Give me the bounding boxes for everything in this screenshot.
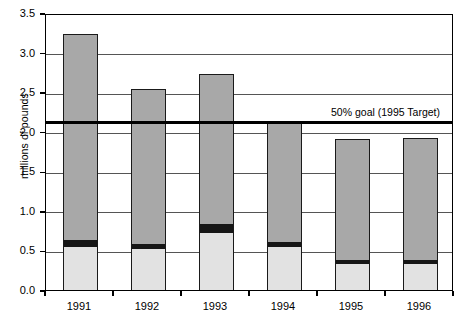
gridline [46,133,452,134]
bar-segment-bottom [336,264,369,290]
bar-segment-top [268,122,301,242]
bar-segment-bottom [200,233,233,290]
y-tick-label: 1.0 [3,205,35,217]
y-tick-label: 1.5 [3,165,35,177]
y-tick-mark [40,172,45,173]
x-tick-mark [452,291,453,296]
bar-segment-top [404,139,437,260]
y-tick-mark [40,53,45,54]
bar-1996 [403,138,438,290]
x-tick-label-1991: 1991 [45,300,113,312]
gridline [46,173,452,174]
bar-segment-bottom [64,247,97,290]
gridline [46,94,452,95]
x-tick-mark [316,291,317,296]
y-tick-label: 0.0 [3,284,35,296]
bar-1994 [267,121,302,290]
stacked-bar-chart: millions of pounds 50% goal (1995 Target… [0,0,460,331]
gridline [46,212,452,213]
x-tick-label-1993: 1993 [181,300,249,312]
x-tick-label-1992: 1992 [113,300,181,312]
plot-area: 50% goal (1995 Target) [45,14,453,291]
bar-segment-top [336,140,369,260]
y-tick-mark [40,13,45,14]
x-tick-mark [112,291,113,296]
gridline [46,252,452,253]
bar-1995 [335,139,370,290]
bar-segment-top [64,35,97,240]
x-tick-mark [44,291,45,296]
x-tick-mark [384,291,385,296]
bar-1992 [131,89,166,290]
x-tick-label-1996: 1996 [385,300,453,312]
bar-segment-middle [200,224,233,233]
bar-1991 [63,34,98,290]
x-tick-mark [180,291,181,296]
bar-segment-top [132,90,165,244]
bar-segment-middle [64,240,97,247]
gridline [46,54,452,55]
y-tick-mark [40,211,45,212]
x-tick-label-1995: 1995 [317,300,385,312]
y-tick-label: 2.5 [3,86,35,98]
goal-threshold-label: 50% goal (1995 Target) [331,106,440,118]
bar-1993 [199,74,234,290]
y-tick-label: 3.0 [3,47,35,59]
y-tick-mark [40,132,45,133]
bar-segment-bottom [132,249,165,290]
y-tick-label: 2.0 [3,126,35,138]
bar-segment-bottom [268,247,301,290]
bar-segment-top [200,75,233,224]
x-tick-mark [248,291,249,296]
y-tick-mark [40,92,45,93]
goal-threshold-line [46,121,452,124]
y-tick-mark [40,251,45,252]
bar-segment-bottom [404,264,437,290]
y-tick-label: 3.5 [3,7,35,19]
y-tick-label: 0.5 [3,244,35,256]
x-tick-label-1994: 1994 [249,300,317,312]
